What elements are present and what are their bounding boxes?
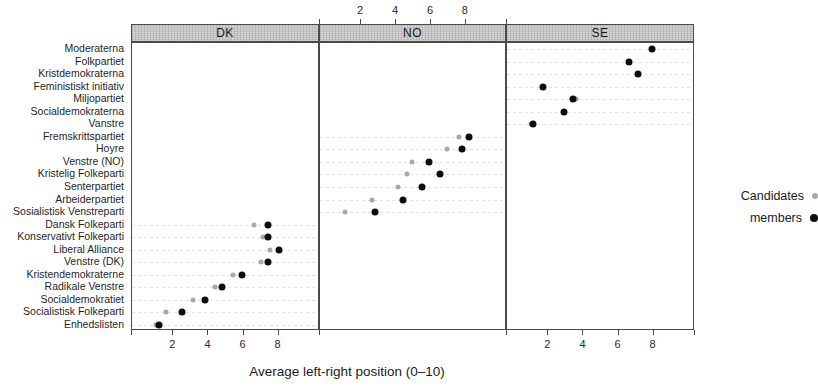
x-axis-title: Average left-right position (0–10): [0, 364, 694, 379]
y-axis-label-socialistisk-folkeparti: Socialistisk Folkeparti: [23, 305, 124, 317]
data-point-members: [156, 321, 163, 328]
y-axis-label-venstre-dk: Venstre (DK): [64, 255, 124, 267]
ticklabel-no-6: 6: [427, 4, 433, 16]
tickmark-no-2: [360, 19, 361, 24]
gridline-row: [507, 49, 693, 50]
gridline-row: [320, 174, 505, 175]
gridline-row: [320, 200, 505, 201]
data-point-members: [459, 146, 466, 153]
gridline-row: [132, 300, 318, 301]
gridline-row: [132, 250, 318, 251]
legend: Candidates members: [700, 185, 818, 229]
legend-item-candidates: Candidates: [700, 185, 818, 207]
data-point-members: [372, 209, 379, 216]
data-point-candidates: [213, 285, 218, 290]
legend-item-members: members: [700, 207, 818, 229]
data-point-candidates: [343, 210, 348, 215]
tickmark-dk-edge-0: [131, 330, 132, 335]
panel-strip-no: NO: [319, 24, 506, 42]
data-point-candidates: [164, 310, 169, 315]
tickmark-se-2: [547, 330, 548, 335]
gridline-row: [320, 137, 505, 138]
data-point-candidates: [395, 185, 400, 190]
gridline-row: [132, 312, 318, 313]
data-point-members: [201, 296, 208, 303]
data-point-members: [400, 196, 407, 203]
ticklabel-no-2: 2: [357, 4, 363, 16]
gridline-row: [320, 149, 505, 150]
tickmark-dk-6: [243, 330, 244, 335]
ticklabel-no-8: 8: [462, 4, 468, 16]
y-axis-label-enhedslisten: Enhedslisten: [64, 318, 124, 330]
no-panel-top-axis-ticklabels: 2468: [0, 4, 818, 18]
gridline-row: [132, 275, 318, 276]
y-axis-label-fremskrittspartiet: Fremskrittspartiet: [43, 130, 124, 142]
dot-plot-figure: 2468 DK NO SE ModeraternaFolkpartietKris…: [0, 0, 818, 391]
panel-strip-label-dk: DK: [216, 26, 234, 40]
data-point-members: [648, 46, 655, 53]
ticklabel-no-4: 4: [392, 4, 398, 16]
data-point-candidates: [231, 272, 236, 277]
tickmark-dk-8: [278, 330, 279, 335]
y-axis-label-socialdemokratiet: Socialdemokratiet: [41, 293, 124, 305]
y-axis-label-senterpartiet: Senterpartiet: [64, 180, 124, 192]
y-axis-label-socialdemokraterna: Socialdemokraterna: [31, 105, 124, 117]
panel-strip-dk: DK: [131, 24, 319, 42]
y-axis-label-kristendemokraterne: Kristendemokraterne: [27, 268, 124, 280]
plot-panel-se: [506, 42, 694, 330]
y-axis-label-sosialistisk-venstreparti: Sosialistisk Venstreparti: [13, 205, 124, 217]
data-point-members: [426, 158, 433, 165]
data-point-members: [634, 71, 641, 78]
panel-strip-label-se: SE: [591, 26, 608, 40]
ticklabel-se-6: 6: [614, 338, 620, 350]
data-point-members: [219, 284, 226, 291]
gridline-row: [132, 262, 318, 263]
gridline-row: [132, 237, 318, 238]
tickmark-no-8: [465, 19, 466, 24]
y-axis-party-labels: ModeraternaFolkpartietKristdemokraternaF…: [0, 42, 128, 330]
tickmark-se-edge-1: [694, 330, 695, 335]
panel-strip-se: SE: [506, 24, 694, 42]
tickmark-dk-4: [207, 330, 208, 335]
data-point-members: [569, 96, 576, 103]
y-axis-label-kristdemokraterna: Kristdemokraterna: [38, 67, 124, 79]
y-axis-label-radikale-venstre: Radikale Venstre: [45, 280, 124, 292]
y-axis-label-vanstre: Vanstre: [89, 117, 124, 129]
legend-label-members: members: [750, 211, 802, 225]
data-point-members: [265, 234, 272, 241]
data-point-candidates: [456, 134, 461, 139]
gridline-row: [507, 74, 693, 75]
data-point-members: [626, 58, 633, 65]
data-point-members: [275, 246, 282, 253]
data-point-candidates: [252, 222, 257, 227]
data-point-members: [238, 271, 245, 278]
y-axis-label-venstre-no: Venstre (NO): [63, 155, 124, 167]
data-point-candidates: [404, 172, 409, 177]
data-point-members: [179, 309, 186, 316]
data-point-members: [540, 83, 547, 90]
ticklabel-se-8: 8: [650, 338, 656, 350]
plot-panel-no: [319, 42, 506, 330]
plot-panel-dk: [131, 42, 319, 330]
gridline-row: [507, 112, 693, 113]
data-point-members: [419, 184, 426, 191]
y-axis-label-miljopartiet: Miljopartiet: [73, 92, 124, 104]
tickmark-se-8: [653, 330, 654, 335]
tickmark-no-4: [395, 19, 396, 24]
gridline-row: [132, 225, 318, 226]
y-axis-label-dansk-folkeparti: Dansk Folkeparti: [45, 218, 124, 230]
data-point-members: [529, 121, 536, 128]
legend-dot-candidates-icon: [812, 193, 818, 199]
data-point-members: [436, 171, 443, 178]
tickmark-no-edge-1: [506, 19, 507, 24]
data-point-candidates: [409, 159, 414, 164]
gridline-row: [507, 99, 693, 100]
gridline-row: [507, 87, 693, 88]
y-axis-label-liberal-alliance: Liberal Alliance: [53, 243, 124, 255]
data-point-candidates: [259, 260, 264, 265]
data-point-members: [265, 221, 272, 228]
ticklabel-se-4: 4: [579, 338, 585, 350]
ticklabel-se-2: 2: [544, 338, 550, 350]
tickmark-dk-2: [172, 330, 173, 335]
data-point-candidates: [444, 147, 449, 152]
